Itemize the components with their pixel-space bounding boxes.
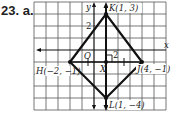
grid [34,2,166,110]
y-axis-label: y [85,2,91,12]
line-kl [104,2,109,111]
point-k-label: K(1, 3) [108,3,138,13]
point-h [68,60,72,64]
coordinate-diagram: y x O 2 2 K(1, 3) H(−2, −1) J(4, −1) L(1… [0,0,182,125]
y-tick-label-2: 2 [86,21,91,31]
point-x-label: X [99,64,107,74]
x-axis [36,48,166,52]
point-h-label: H(−2, −1) [35,66,81,76]
origin-label: O [84,51,91,61]
point-l [104,96,108,100]
y-axis [92,2,96,110]
point-j-label: J(4, −1) [135,64,170,74]
point-k [104,12,108,16]
point-l-label: L(1, −4) [108,100,145,110]
x-tick-label-2: 2 [113,50,118,60]
x-axis-label: x [164,40,169,50]
